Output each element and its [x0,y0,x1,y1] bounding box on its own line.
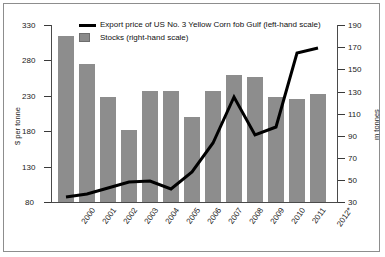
legend-line-marker [79,24,96,27]
legend-swatch-marker [79,33,90,42]
chart-canvas: 330 280 230 180 130 80 $ per tonne 190 1… [0,0,385,257]
legend-label-price: Export price of US No. 3 Yellow Corn fob… [100,20,321,29]
legend-label-stocks: Stocks (right-hand scale) [100,33,188,42]
